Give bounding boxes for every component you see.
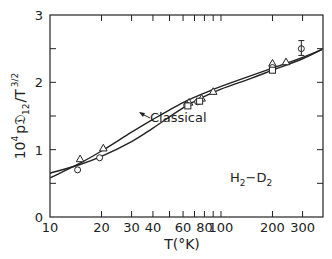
x-tick-label: 300 <box>290 220 315 235</box>
svg-text:Classical: Classical <box>150 110 207 125</box>
y-axis-label: 104p𝔇12/T3/2 <box>10 73 31 160</box>
square-marker <box>269 67 275 73</box>
square-marker <box>185 103 191 109</box>
x-tick-label: 40 <box>145 220 162 235</box>
y-tick-label: 3 <box>35 8 43 23</box>
classical-annotation: Classical <box>139 110 207 125</box>
x-tick-label: 200 <box>260 220 285 235</box>
x-tick-label: 100 <box>209 220 234 235</box>
circle-marker <box>97 155 103 161</box>
x-tick-label: 10 <box>42 220 59 235</box>
x-axis-label: T(°K) <box>163 236 200 252</box>
square-marker <box>197 98 203 104</box>
circle-marker <box>75 167 81 173</box>
x-tick-label: 30 <box>123 220 140 235</box>
y-tick-label: 0 <box>35 210 43 225</box>
x-tick-label: 20 <box>93 220 110 235</box>
svg-text:104p𝔇12/T3/2: 104p𝔇12/T3/2 <box>10 73 31 160</box>
triangle-marker <box>76 155 84 162</box>
x-tick-label: 60 <box>175 220 192 235</box>
y-tick-label: 2 <box>35 75 43 90</box>
y-tick-label: 1 <box>35 143 43 158</box>
system-label: H2−D2 <box>230 170 272 188</box>
chart: 1020304060801002003000123 T(°K) 104p𝔇12/… <box>0 0 332 259</box>
triangle-marker <box>282 58 290 65</box>
